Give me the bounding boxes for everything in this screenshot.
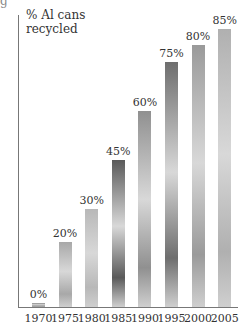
x-tick-1970: 1970 <box>24 312 54 325</box>
bar-1970 <box>32 303 45 307</box>
bar-2000 <box>192 45 205 307</box>
x-tick-1980: 1980 <box>77 312 107 325</box>
x-axis-line <box>18 307 238 308</box>
value-label-1990: 60% <box>128 96 162 109</box>
y-axis-line <box>18 15 19 308</box>
x-tick-2005: 2005 <box>210 312 240 325</box>
value-label-1970: 0% <box>22 288 56 301</box>
bar-2005 <box>218 29 231 307</box>
bar-1995 <box>165 62 178 307</box>
cropped-text-fragment: g <box>0 0 8 8</box>
bar-1990 <box>138 111 151 307</box>
x-tick-1985: 1985 <box>103 312 133 325</box>
x-tick-1990: 1990 <box>130 312 160 325</box>
y-axis-label: % Al cans recycled <box>26 8 85 36</box>
value-label-1975: 20% <box>48 227 82 240</box>
value-label-1980: 30% <box>75 194 109 207</box>
x-tick-1995: 1995 <box>157 312 187 325</box>
value-label-1995: 75% <box>155 47 189 60</box>
value-label-1985: 45% <box>101 145 135 158</box>
value-label-2000: 80% <box>181 30 215 43</box>
bar-1985 <box>112 160 125 307</box>
x-tick-1975: 1975 <box>50 312 80 325</box>
bar-1980 <box>85 209 98 307</box>
bar-1975 <box>59 242 72 307</box>
value-label-2005: 85% <box>208 14 242 27</box>
x-tick-2000: 2000 <box>183 312 213 325</box>
